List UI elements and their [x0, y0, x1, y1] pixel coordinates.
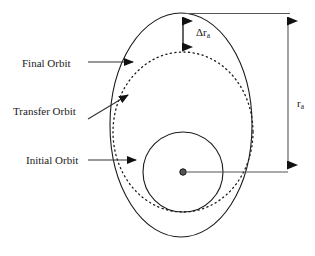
transfer-orbit-leader-line: [88, 95, 128, 119]
orbit-transfer-diagram: Final Orbit Transfer Orbit Initial Orbit…: [0, 0, 315, 256]
diagram-canvas: [0, 0, 315, 256]
transfer-orbit-label: Transfer Orbit: [13, 106, 76, 117]
delta-ra-subscript: a: [207, 31, 210, 40]
ra-subscript: a: [301, 102, 304, 111]
final-orbit-label: Final Orbit: [22, 58, 71, 69]
ra-label: ra: [297, 98, 304, 109]
final-orbit-ellipse: [110, 13, 252, 237]
delta-ra-symbol: Δr: [196, 26, 207, 38]
delta-ra-label: Δra: [196, 27, 210, 38]
initial-orbit-label: Initial Orbit: [26, 155, 78, 166]
